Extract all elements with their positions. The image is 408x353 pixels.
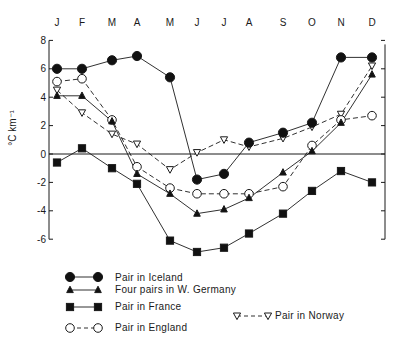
filled-circle-marker	[307, 118, 316, 127]
open-circle-marker	[368, 111, 377, 120]
open-triangle-down-marker	[108, 131, 115, 138]
filled-circle-marker	[77, 64, 86, 73]
filled-square-marker	[220, 244, 227, 251]
filled-circle-marker	[165, 73, 174, 82]
legend-label-france: Pair in France	[115, 301, 181, 312]
y-tick-label: -2	[37, 177, 46, 188]
filled-square-marker	[337, 167, 344, 174]
legend-item-germany: Four pairs in W. Germany	[115, 284, 236, 295]
filled-square-marker	[78, 145, 85, 152]
open-triangle-down-marker	[368, 63, 375, 70]
filled-circle-marker	[367, 53, 376, 62]
legend-label-iceland: Pair in Iceland	[115, 272, 183, 283]
filled-square-marker	[308, 187, 315, 194]
open-circle-marker	[53, 77, 62, 86]
y-tick-label: -4	[37, 205, 46, 216]
filled-square-marker	[133, 180, 140, 187]
filled-triangle-marker	[54, 92, 61, 98]
filled-triangle-marker	[79, 92, 86, 98]
series-line	[57, 79, 372, 194]
filled-square-marker	[368, 179, 375, 186]
open-circle-marker	[279, 182, 288, 191]
month-label: A	[246, 17, 253, 28]
filled-triangle-marker	[134, 170, 141, 176]
y-tick-label: 2	[40, 120, 46, 131]
y-tick-label: 0	[40, 149, 46, 160]
filled-square-marker	[166, 237, 173, 244]
filled-circle-marker	[65, 272, 74, 281]
filled-circle-marker	[336, 53, 345, 62]
legend-item-iceland: Pair in Iceland	[115, 272, 183, 283]
x-axis-month-labels: JFMAMJJASOND	[55, 17, 376, 28]
y-tick-label: -6	[37, 234, 46, 245]
month-label: J	[195, 17, 200, 28]
filled-square-marker	[245, 230, 252, 237]
filled-square-marker	[108, 165, 115, 172]
open-circle-marker	[220, 189, 229, 198]
axes	[49, 40, 385, 239]
filled-triangle-marker	[95, 286, 102, 292]
filled-circle-marker	[192, 175, 201, 184]
open-triangle-down-marker	[78, 110, 85, 117]
filled-circle-marker	[132, 51, 141, 60]
filled-square-marker	[94, 303, 101, 310]
open-triangle-down-marker	[133, 141, 140, 148]
filled-circle-marker	[278, 128, 287, 137]
open-circle-marker	[193, 189, 202, 198]
filled-square-marker	[66, 303, 73, 310]
month-label: M	[108, 17, 116, 28]
month-label: A	[134, 17, 141, 28]
legend-label-norway: Pair in Norway	[275, 310, 344, 321]
open-circle-marker	[94, 324, 103, 333]
lapse-rate-chart: JFMAMJJASOND 86420-2-4-6 °C km⁻¹	[0, 0, 408, 353]
y-axis-label: °C km⁻¹	[7, 110, 18, 146]
y-tick-label: 6	[40, 63, 46, 74]
month-label: F	[79, 17, 85, 28]
open-circle-marker	[78, 74, 87, 83]
month-label: D	[368, 17, 375, 28]
month-label: N	[337, 17, 344, 28]
legend-item-norway: Pair in Norway	[275, 310, 344, 321]
legend-item-france: Pair in France	[115, 301, 181, 312]
filled-circle-marker	[219, 169, 228, 178]
filled-circle-marker	[93, 272, 102, 281]
y-tick-label: 8	[40, 35, 46, 46]
legend-label-germany: Four pairs in W. Germany	[115, 284, 236, 295]
series-line	[57, 75, 372, 214]
month-label: O	[308, 17, 316, 28]
open-triangle-down-marker	[166, 167, 173, 174]
open-circle-marker	[66, 324, 75, 333]
month-label: J	[222, 17, 227, 28]
month-label: M	[166, 17, 174, 28]
series-line	[57, 56, 372, 180]
series-line	[57, 148, 372, 252]
filled-circle-marker	[244, 138, 253, 147]
open-triangle-down-marker	[193, 150, 200, 157]
filled-circle-marker	[52, 64, 61, 73]
filled-square-marker	[53, 159, 60, 166]
filled-triangle-marker	[280, 169, 287, 175]
legend-item-england: Pair in England	[115, 322, 187, 333]
y-tick-label: 4	[40, 92, 46, 103]
filled-triangle-marker	[67, 286, 74, 292]
month-label: S	[280, 17, 287, 28]
filled-triangle-marker	[369, 71, 376, 77]
filled-square-marker	[193, 248, 200, 255]
filled-circle-marker	[107, 56, 116, 65]
month-label: J	[55, 17, 60, 28]
legend-label-england: Pair in England	[115, 322, 187, 333]
y-axis-tick-labels: 86420-2-4-6	[37, 35, 46, 245]
filled-square-marker	[279, 210, 286, 217]
